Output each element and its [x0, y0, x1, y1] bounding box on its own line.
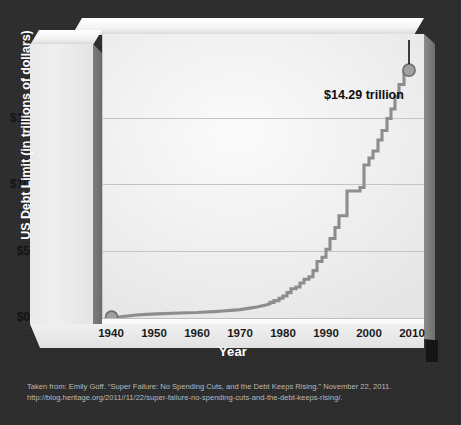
debt-limit-step-line: [103, 34, 425, 329]
plot-right-face: [424, 34, 435, 340]
x-tick-1990: 1990: [306, 327, 346, 339]
plot-top-bevel: [72, 18, 424, 35]
x-tick-1980: 1980: [263, 327, 303, 339]
chart-page: $15 $10 $5 $0 1940 1950 1960 1970 1980 1…: [0, 0, 461, 425]
y-tick-labels: $15 $10 $5 $0: [28, 18, 93, 358]
value-annotation-label: $14.29 trillion: [324, 88, 404, 102]
plot-floor-band: [102, 318, 424, 325]
x-tick-1940: 1940: [91, 327, 131, 339]
source-caption: Taken from: Emily Goff. “Super Failure: …: [27, 381, 437, 403]
x-tick-1960: 1960: [177, 327, 217, 339]
end-marker: [403, 64, 415, 76]
caption-line-2: http://blog.heritage.org/2011//11/22/sup…: [27, 392, 437, 403]
x-tick-2000: 2000: [349, 327, 389, 339]
x-tick-1970: 1970: [220, 327, 260, 339]
step-line-path: [112, 71, 408, 317]
y-tick-0: $0: [17, 310, 30, 324]
chart-3d-frame: $15 $10 $5 $0 1940 1950 1960 1970 1980 1…: [28, 18, 438, 358]
caption-line-1: Taken from: Emily Goff. “Super Failure: …: [27, 381, 437, 392]
y-axis-panel-side-face: [93, 44, 102, 329]
y-axis-title: US Debt Limit (in trillions of dollars): [19, 15, 33, 255]
x-tick-2010: 2010: [392, 327, 432, 339]
plot-area: [102, 34, 424, 329]
x-tick-1950: 1950: [134, 327, 174, 339]
x-axis-title: Year: [28, 344, 438, 359]
